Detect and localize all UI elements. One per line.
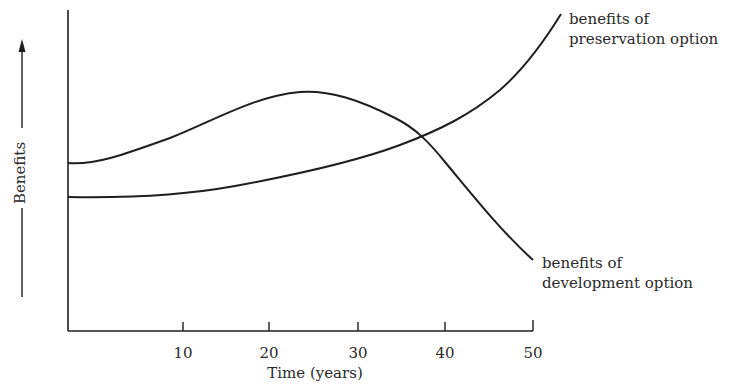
x-tick-label-30: 30 <box>348 344 367 362</box>
x-tick-label-20: 20 <box>259 344 278 362</box>
y-axis-label-container: Benefits <box>0 48 40 298</box>
x-tick-label-40: 40 <box>435 344 454 362</box>
x-axis-label: Time (years) <box>267 364 363 382</box>
development-annotation-line1: benefits of <box>542 253 693 273</box>
chart-canvas <box>0 0 739 390</box>
preservation-curve <box>68 14 561 197</box>
x-tick-label-50: 50 <box>523 344 542 362</box>
development-annotation-line2: development option <box>542 273 693 293</box>
preservation-annotation: benefits of preservation option <box>569 9 718 49</box>
development-annotation: benefits of development option <box>542 253 693 293</box>
preservation-annotation-line1: benefits of <box>569 9 718 29</box>
y-axis-label: Benefits <box>11 139 29 207</box>
x-ticks <box>183 320 533 331</box>
preservation-annotation-line2: preservation option <box>569 29 718 49</box>
x-tick-label-10: 10 <box>173 344 192 362</box>
